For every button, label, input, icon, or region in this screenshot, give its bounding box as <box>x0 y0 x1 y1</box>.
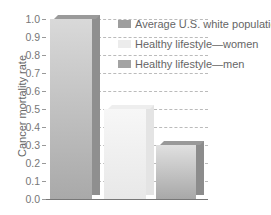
y-tick-mark <box>42 91 46 92</box>
x-axis-line <box>46 199 208 200</box>
y-tick-mark <box>42 73 46 74</box>
y-tick-mark <box>42 145 46 146</box>
y-tick-label: 0.1 <box>4 175 40 187</box>
y-tick-label: 0.8 <box>4 49 40 61</box>
y-tick-mark <box>42 55 46 56</box>
y-tick-label: 0.7 <box>4 67 40 79</box>
y-tick-label: 0.0 <box>4 193 40 205</box>
legend: Average U.S. white population Healthy li… <box>118 14 271 74</box>
y-tick-label: 0.4 <box>4 121 40 133</box>
y-tick-label: 0.3 <box>4 139 40 151</box>
y-tick-label: 1.0 <box>4 13 40 25</box>
y-tick-label: 0.2 <box>4 157 40 169</box>
legend-swatch-women <box>118 40 131 48</box>
y-tick-mark <box>42 37 46 38</box>
y-tick-label: 0.9 <box>4 31 40 43</box>
y-tick-mark <box>42 109 46 110</box>
legend-item-men: Healthy lifestyle—men <box>118 54 271 74</box>
y-tick-label: 0.6 <box>4 85 40 97</box>
legend-swatch-average <box>118 20 131 28</box>
legend-item-women: Healthy lifestyle—women <box>118 34 271 54</box>
gridline <box>98 91 208 92</box>
y-tick-mark <box>42 181 46 182</box>
legend-swatch-men <box>118 60 131 68</box>
y-tick-mark <box>42 163 46 164</box>
y-tick-mark <box>42 19 46 20</box>
legend-label: Healthy lifestyle—women <box>135 38 259 50</box>
legend-item-average: Average U.S. white population <box>118 14 271 34</box>
bar-healthy-women <box>104 109 146 199</box>
y-tick-label: 0.5 <box>4 103 40 115</box>
bar-average <box>50 19 92 199</box>
bar-chart: Cancer mortality rate 0.00.10.20.30.40.5… <box>0 0 271 215</box>
legend-label: Healthy lifestyle—men <box>135 58 244 70</box>
bar-healthy-men <box>156 145 196 199</box>
y-tick-mark <box>42 127 46 128</box>
legend-label: Average U.S. white population <box>135 18 271 30</box>
